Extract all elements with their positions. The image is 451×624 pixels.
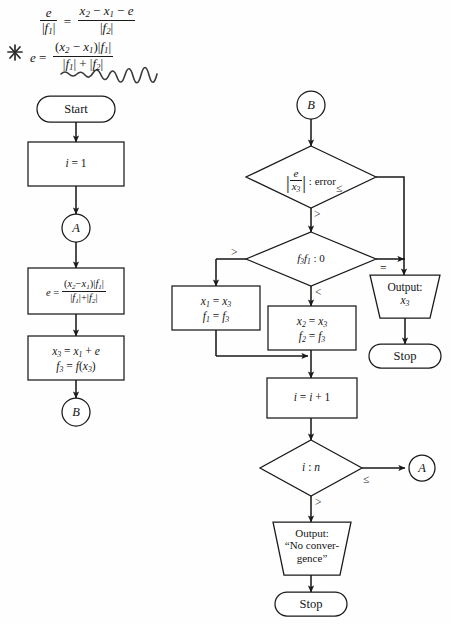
node-connector-b-top	[297, 91, 325, 119]
node-connector-a	[62, 214, 90, 242]
node-output-noconv	[273, 522, 351, 575]
node-output-x3	[370, 275, 440, 318]
node-update-x2	[268, 306, 356, 350]
node-decision-sign	[246, 232, 376, 286]
node-stop-2	[275, 592, 347, 616]
node-increment	[267, 378, 357, 418]
node-stop-1	[369, 344, 441, 368]
node-update-x1	[172, 286, 260, 330]
node-calc-x3	[28, 336, 124, 380]
node-decision-error	[246, 146, 376, 208]
node-calc-e	[28, 268, 124, 314]
equation-2: e = (x2 − x1)|f1||f1| + |f2|	[30, 40, 113, 73]
node-connector-b	[62, 398, 90, 426]
node-connector-a-right	[409, 455, 435, 481]
node-init	[28, 142, 124, 186]
node-start	[37, 96, 115, 122]
diagram-canvas: .sh{fill:#ffffff;stroke:#1a1a1a;stroke-w…	[0, 0, 451, 624]
node-decision-iter	[260, 440, 362, 496]
flowchart-vector-layer: .sh{fill:#ffffff;stroke:#1a1a1a;stroke-w…	[0, 0, 451, 624]
hand-asterisk-mark	[8, 45, 22, 60]
equation-1: e|f1| = x2 − x1 − e|f2|	[40, 4, 135, 37]
